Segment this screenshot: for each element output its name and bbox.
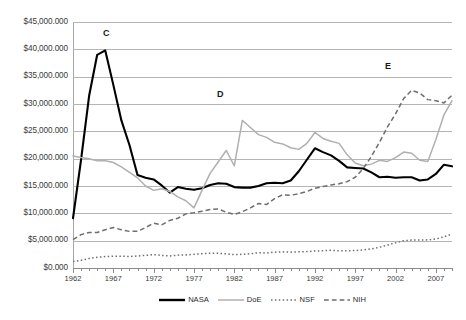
x-axis-tick-mark bbox=[363, 268, 364, 271]
legend-label: DoE bbox=[247, 296, 262, 304]
x-axis-tick-mark bbox=[121, 268, 122, 271]
y-axis-tick-label: $15,000.000 bbox=[0, 181, 68, 190]
x-axis-tick-mark bbox=[412, 268, 413, 271]
gridline bbox=[73, 49, 452, 50]
x-axis-tick-mark bbox=[154, 268, 155, 273]
gridline bbox=[73, 213, 452, 214]
plot-area bbox=[73, 22, 452, 268]
y-axis-tick-label: $30,000.000 bbox=[0, 99, 68, 108]
x-axis-tick-mark bbox=[404, 268, 405, 271]
legend-swatch-nih bbox=[324, 296, 350, 304]
annotation-label-d: D bbox=[217, 89, 224, 99]
legend-item-doe[interactable]: DoE bbox=[218, 296, 262, 304]
x-axis-tick-mark bbox=[113, 268, 114, 273]
gridline bbox=[73, 241, 452, 242]
chart-legend: NASADoENSFNIH bbox=[73, 296, 452, 304]
x-axis-tick-mark bbox=[331, 268, 332, 271]
x-axis-tick-mark bbox=[339, 268, 340, 271]
x-axis-tick-mark bbox=[218, 268, 219, 271]
x-axis-tick-label: 2007 bbox=[416, 274, 456, 283]
x-axis-tick-mark bbox=[81, 268, 82, 271]
x-axis-tick-mark bbox=[226, 268, 227, 271]
legend-swatch-nasa bbox=[159, 296, 185, 304]
gridline bbox=[73, 159, 452, 160]
x-axis-tick-mark bbox=[97, 268, 98, 271]
y-axis-tick-label: $0.000 bbox=[0, 263, 68, 272]
x-axis-tick-mark bbox=[194, 268, 195, 273]
y-axis-tick-label: $10,000.000 bbox=[0, 208, 68, 217]
x-axis-tick-mark bbox=[202, 268, 203, 271]
x-axis-tick-mark bbox=[315, 268, 316, 273]
x-axis-tick-mark bbox=[379, 268, 380, 271]
x-axis-tick-mark bbox=[210, 268, 211, 271]
x-axis-tick-label: 1967 bbox=[93, 274, 133, 283]
x-axis-tick-mark bbox=[291, 268, 292, 271]
y-axis-tick-label: $5,000.000 bbox=[0, 235, 68, 244]
legend-label: NASA bbox=[188, 296, 209, 304]
legend-item-nih[interactable]: NIH bbox=[324, 296, 366, 304]
x-axis-tick-mark bbox=[105, 268, 106, 271]
x-axis-tick-mark bbox=[275, 268, 276, 273]
x-axis-tick-mark bbox=[170, 268, 171, 271]
y-axis-tick-label: $25,000.000 bbox=[0, 126, 68, 135]
legend-item-nsf[interactable]: NSF bbox=[271, 296, 315, 304]
x-axis-tick-mark bbox=[89, 268, 90, 271]
x-axis-tick-mark bbox=[138, 268, 139, 271]
x-axis-tick-mark bbox=[250, 268, 251, 271]
gridline bbox=[73, 22, 452, 23]
x-axis-tick-mark bbox=[129, 268, 130, 271]
gridline bbox=[73, 131, 452, 132]
x-axis-tick-mark bbox=[258, 268, 259, 271]
x-axis-tick-mark bbox=[178, 268, 179, 271]
x-axis-tick-mark bbox=[267, 268, 268, 271]
gridline bbox=[73, 186, 452, 187]
x-axis-tick-mark bbox=[299, 268, 300, 271]
x-axis-tick-label: 1992 bbox=[295, 274, 335, 283]
x-axis-tick-mark bbox=[347, 268, 348, 271]
x-axis-tick-label: 1972 bbox=[134, 274, 174, 283]
x-axis-tick-label: 1962 bbox=[53, 274, 93, 283]
gridline bbox=[73, 77, 452, 78]
x-axis-tick-mark bbox=[186, 268, 187, 271]
annotation-label-c: C bbox=[103, 28, 110, 38]
x-axis-tick-label: 2002 bbox=[376, 274, 416, 283]
legend-swatch-doe bbox=[218, 296, 244, 304]
legend-item-nasa[interactable]: NASA bbox=[159, 296, 209, 304]
y-axis-tick-label: $40,000.000 bbox=[0, 44, 68, 53]
x-axis-tick-mark bbox=[420, 268, 421, 271]
y-axis-tick-label: $35,000.000 bbox=[0, 71, 68, 80]
x-axis-tick-mark bbox=[323, 268, 324, 271]
x-axis-tick-mark bbox=[73, 268, 74, 273]
legend-label: NIH bbox=[353, 296, 366, 304]
x-axis-tick-mark bbox=[444, 268, 445, 271]
annotation-label-e: E bbox=[385, 61, 391, 71]
x-axis-tick-mark bbox=[452, 268, 453, 271]
x-axis-tick-mark bbox=[234, 268, 235, 273]
gridline bbox=[73, 104, 452, 105]
x-axis-tick-mark bbox=[283, 268, 284, 271]
x-axis-tick-mark bbox=[387, 268, 388, 271]
x-axis-tick-label: 1987 bbox=[255, 274, 295, 283]
x-axis-tick-mark bbox=[162, 268, 163, 271]
x-axis-tick-label: 1977 bbox=[174, 274, 214, 283]
chart-container: $45,000.000$40,000.000$35,000.000$30,000… bbox=[0, 0, 466, 320]
x-axis-tick-mark bbox=[146, 268, 147, 271]
x-axis-tick-mark bbox=[436, 268, 437, 273]
y-axis-tick-label: $45,000.000 bbox=[0, 17, 68, 26]
x-axis-tick-label: 1997 bbox=[335, 274, 375, 283]
x-axis-tick-mark bbox=[307, 268, 308, 271]
x-axis-tick-label: 1982 bbox=[214, 274, 254, 283]
x-axis-tick-mark bbox=[396, 268, 397, 273]
x-axis-tick-mark bbox=[371, 268, 372, 271]
x-axis-tick-mark bbox=[242, 268, 243, 271]
x-axis-tick-mark bbox=[428, 268, 429, 271]
legend-swatch-nsf bbox=[271, 296, 297, 304]
x-axis-tick-mark bbox=[355, 268, 356, 273]
legend-label: NSF bbox=[300, 296, 315, 304]
y-axis-tick-label: $20,000.000 bbox=[0, 153, 68, 162]
